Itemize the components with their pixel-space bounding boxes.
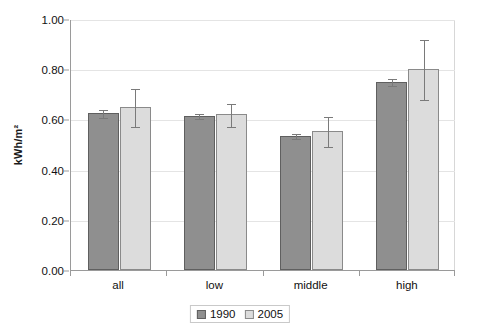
x-axis-tick-labels: alllowmiddlehigh (70, 279, 455, 297)
error-bar-cap-lower (227, 127, 236, 128)
legend: 19902005 (190, 305, 290, 323)
error-bar-cap-upper (292, 134, 301, 135)
bar-high-1990 (376, 82, 407, 270)
error-bar-cap-lower (99, 118, 108, 119)
error-bar-cap-lower (195, 119, 204, 120)
gridline (71, 70, 455, 71)
x-axis-tick-mark (166, 271, 167, 276)
error-bar-middle-2005 (328, 117, 329, 147)
y-axis-tick-mark (64, 170, 69, 171)
bar-middle-2005 (312, 131, 343, 270)
x-axis-tick-mark (359, 271, 360, 276)
x-axis-tick-label-all: all (112, 279, 124, 291)
error-bar-cap-upper (195, 114, 204, 115)
error-bar-cap-upper (324, 117, 333, 118)
bar-low-2005 (216, 114, 247, 270)
error-bar-cap-upper (420, 40, 429, 41)
y-axis-tick-labels: 0.000.200.400.600.801.00 (0, 20, 64, 271)
bar-low-1990 (184, 116, 215, 270)
gridline (71, 20, 455, 21)
y-axis-tick-mark (64, 20, 69, 21)
y-axis-tick-label: 0.20 (2, 215, 64, 226)
y-axis-tick-mark (64, 271, 69, 272)
legend-label: 1990 (210, 308, 236, 320)
error-bar-all-2005 (135, 89, 136, 127)
error-bar-cap-lower (131, 127, 140, 128)
y-axis-tick-mark (64, 70, 69, 71)
plot-frame-right (454, 20, 455, 270)
error-bar-all-1990 (103, 110, 104, 118)
error-bar-cap-upper (388, 79, 397, 80)
error-bar-cap-upper (227, 104, 236, 105)
y-axis-tick-label: 1.00 (2, 15, 64, 26)
y-axis-tick-mark (64, 220, 69, 221)
legend-swatch-icon (197, 310, 206, 319)
x-axis-tick-label-middle: middle (294, 279, 328, 291)
error-bar-low-2005 (231, 104, 232, 127)
plot-area (70, 20, 455, 271)
bar-all-2005 (120, 107, 151, 270)
error-bar-cap-lower (388, 86, 397, 87)
bar-middle-1990 (280, 136, 311, 270)
x-axis-tick-mark (454, 271, 455, 276)
legend-swatch-icon (245, 310, 254, 319)
error-bar-cap-lower (324, 147, 333, 148)
error-bar-cap-lower (292, 139, 301, 140)
error-bar-cap-lower (420, 100, 429, 101)
legend-item-1990[interactable]: 1990 (197, 308, 236, 320)
bar-chart: kWh/m² 0.000.200.400.600.801.00 alllowmi… (0, 0, 480, 335)
error-bar-cap-upper (99, 110, 108, 111)
x-axis-tick-label-high: high (396, 279, 418, 291)
x-axis-tick-mark (263, 271, 264, 276)
y-axis-tick-label: 0.60 (2, 115, 64, 126)
legend-item-2005[interactable]: 2005 (245, 308, 284, 320)
y-axis-tick-mark (64, 120, 69, 121)
y-axis-tick-label: 0.00 (2, 266, 64, 277)
error-bar-cap-upper (131, 89, 140, 90)
x-axis-tick-label-low: low (206, 279, 223, 291)
x-axis-tick-mark (70, 271, 71, 276)
y-axis-tick-label: 0.80 (2, 65, 64, 76)
bar-all-1990 (88, 113, 119, 270)
legend-label: 2005 (258, 308, 284, 320)
error-bar-high-2005 (424, 40, 425, 100)
y-axis-tick-label: 0.40 (2, 165, 64, 176)
